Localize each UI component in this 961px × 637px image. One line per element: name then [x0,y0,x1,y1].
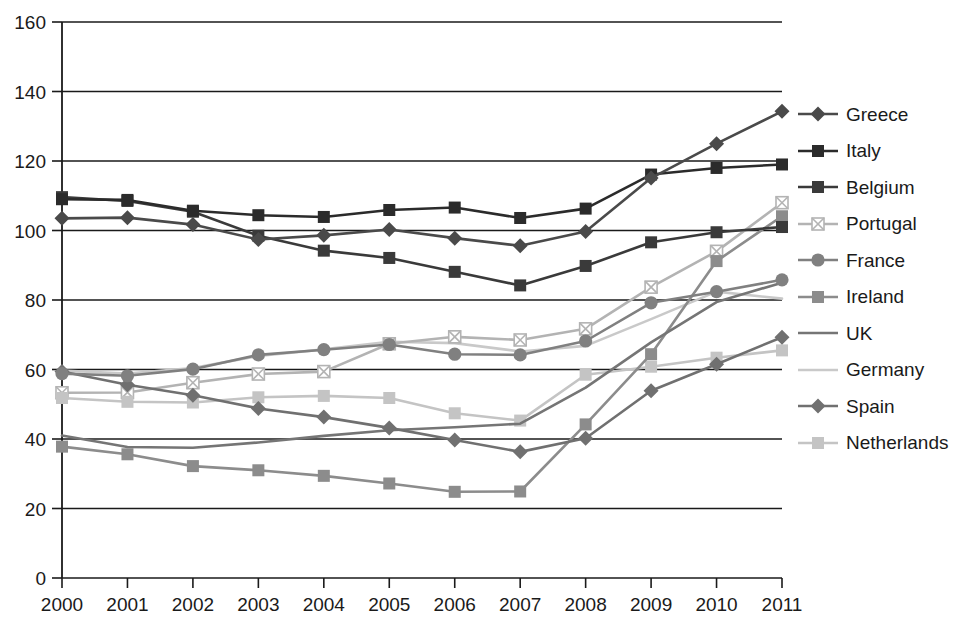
data-point-marker [383,252,395,264]
data-point-marker [187,205,199,217]
data-point-marker [776,158,788,170]
data-point-marker [252,209,264,221]
legend-label: UK [846,324,872,343]
data-point-marker [318,390,330,402]
series-line [62,111,782,245]
line-chart: 0204060801001201401602000200120022003200… [0,0,961,637]
y-tick-label: 40 [25,429,46,450]
data-point-marker [121,396,133,408]
legend-item-spain[interactable]: Spain [797,388,961,425]
x-tick-label: 2001 [106,594,148,615]
legend-item-belgium[interactable]: Belgium [797,169,961,206]
data-point-marker [514,212,526,224]
data-point-marker [382,420,397,435]
x-tick-label: 2010 [695,594,737,615]
data-point-marker [579,334,592,347]
data-point-marker [449,266,461,278]
data-point-marker [812,437,824,449]
legend-item-greece[interactable]: Greece [797,96,961,133]
legend-swatch-none-icon [797,322,839,344]
data-point-marker [449,202,461,214]
y-tick-label: 100 [14,221,46,242]
legend-label: Greece [846,105,908,124]
data-point-marker [645,236,657,248]
y-tick-label: 0 [35,568,46,589]
legend-item-netherlands[interactable]: Netherlands [797,425,961,462]
legend-label: Belgium [846,178,915,197]
data-point-marker [513,444,528,459]
series-france [55,273,788,382]
data-point-marker [447,433,462,448]
data-point-marker [56,193,68,205]
data-point-marker [710,285,723,298]
chart-legend: GreeceItalyBelgiumPortugalFranceIrelandU… [797,96,961,461]
data-point-marker [318,211,330,223]
legend-swatch-circle-icon [797,249,839,271]
legend-swatch-none-icon [797,359,839,381]
legend-swatch-square-icon [797,432,839,454]
x-tick-label: 2006 [434,594,476,615]
legend-item-ireland[interactable]: Ireland [797,279,961,316]
series-line [62,283,782,448]
data-point-marker [383,204,395,216]
data-point-marker [121,448,133,460]
legend-item-uk[interactable]: UK [797,315,961,352]
series-italy [56,158,788,224]
data-point-marker [811,399,826,414]
legend-item-germany[interactable]: Germany [797,352,961,389]
legend-swatch-cross-square-icon [797,213,839,235]
data-point-marker [383,477,395,489]
y-tick-label: 80 [25,290,46,311]
legend-swatch-square-icon [797,140,839,162]
data-point-marker [580,418,592,430]
series-line [62,337,782,452]
data-point-marker [316,410,331,425]
data-point-marker [711,226,723,238]
data-point-marker [187,460,199,472]
x-tick-label: 2009 [630,594,672,615]
legend-swatch-square-icon [797,286,839,308]
data-point-marker [514,485,526,497]
series-ireland [56,210,788,498]
data-point-marker [55,367,68,380]
y-tick-label: 60 [25,360,46,381]
data-point-marker [252,464,264,476]
data-point-marker [383,338,396,351]
legend-label: France [846,251,905,270]
x-tick-label: 2003 [237,594,279,615]
legend-label: Portugal [846,214,917,233]
data-point-marker [514,334,526,346]
data-point-marker [776,221,788,233]
data-point-marker [812,181,824,193]
series-line [62,164,782,218]
data-point-marker [812,218,824,230]
data-point-marker [811,107,826,122]
legend-swatch-diamond-icon [797,395,839,417]
legend-item-france[interactable]: France [797,242,961,279]
x-tick-label: 2005 [368,594,410,615]
x-tick-label: 2000 [41,594,83,615]
data-point-marker [55,211,70,226]
series-line [62,216,782,492]
x-tick-label: 2002 [172,594,214,615]
legend-label: Netherlands [846,433,948,452]
data-point-marker [121,194,133,206]
data-point-marker [187,377,199,389]
legend-item-portugal[interactable]: Portugal [797,206,961,243]
data-point-marker [580,203,592,215]
data-point-marker [513,238,528,253]
data-point-marker [56,392,68,404]
y-tick-label: 20 [25,499,46,520]
data-point-marker [645,361,657,373]
series-line [62,292,782,374]
data-point-marker [775,273,788,286]
legend-item-italy[interactable]: Italy [797,133,961,170]
data-point-marker [121,369,134,382]
data-point-marker [580,323,592,335]
legend-swatch-square-icon [797,176,839,198]
data-point-marker [186,363,199,376]
data-point-marker [448,348,461,361]
data-point-marker [514,348,527,361]
x-tick-label: 2004 [303,594,346,615]
data-point-marker [776,210,788,222]
